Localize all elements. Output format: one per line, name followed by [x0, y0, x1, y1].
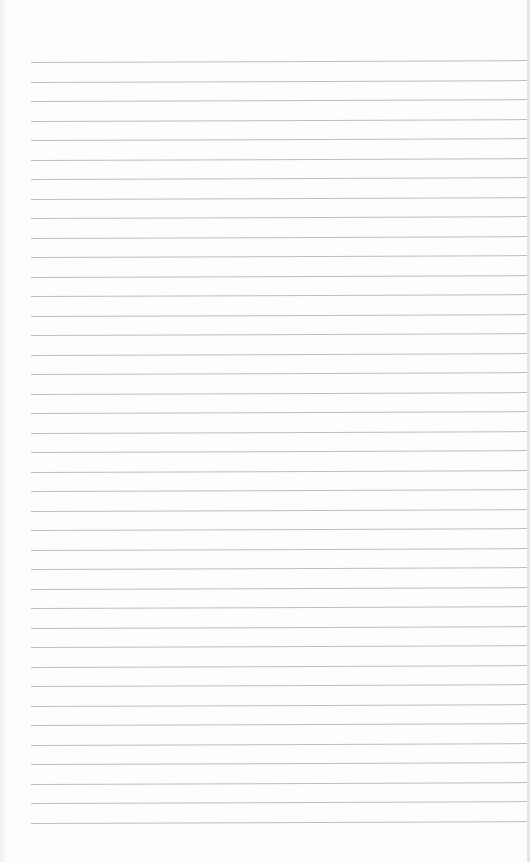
ruled-line — [31, 138, 527, 141]
ruled-line — [31, 489, 527, 492]
ruled-line — [31, 431, 527, 434]
ruled-line — [31, 119, 527, 122]
ruled-line — [31, 782, 527, 785]
ruled-line — [31, 275, 527, 278]
ruled-line — [31, 392, 527, 395]
ruled-line — [31, 372, 527, 375]
ruled-line — [31, 333, 527, 336]
ruled-line — [31, 548, 527, 551]
ruled-line — [31, 197, 527, 200]
ruled-line — [31, 587, 527, 590]
ruled-line — [31, 177, 527, 180]
ruled-line — [31, 704, 527, 707]
ruled-line — [31, 762, 527, 765]
ruled-line — [31, 294, 527, 297]
ruled-line — [31, 353, 527, 356]
ruled-line — [31, 99, 527, 102]
ruled-line — [31, 255, 527, 258]
ruled-line — [31, 606, 527, 609]
ruled-line — [31, 645, 527, 648]
ruled-line — [31, 470, 527, 473]
ruled-line — [31, 314, 527, 317]
ruled-line — [31, 80, 527, 83]
ruled-line — [31, 528, 527, 531]
ruled-line — [31, 684, 527, 687]
ruled-line — [31, 216, 527, 219]
ruled-line — [31, 509, 527, 512]
ruled-line — [31, 743, 527, 746]
ruled-line — [31, 567, 527, 570]
ruled-line — [31, 450, 527, 453]
ruled-line — [31, 801, 527, 804]
ruled-line — [31, 626, 527, 629]
ruled-line — [31, 665, 527, 668]
ruled-line — [31, 158, 527, 161]
ruled-line — [31, 723, 527, 726]
ruled-line — [31, 60, 527, 63]
lined-paper — [0, 0, 530, 862]
ruled-line — [31, 236, 527, 239]
ruled-line — [31, 821, 527, 824]
ruled-line — [31, 411, 527, 414]
